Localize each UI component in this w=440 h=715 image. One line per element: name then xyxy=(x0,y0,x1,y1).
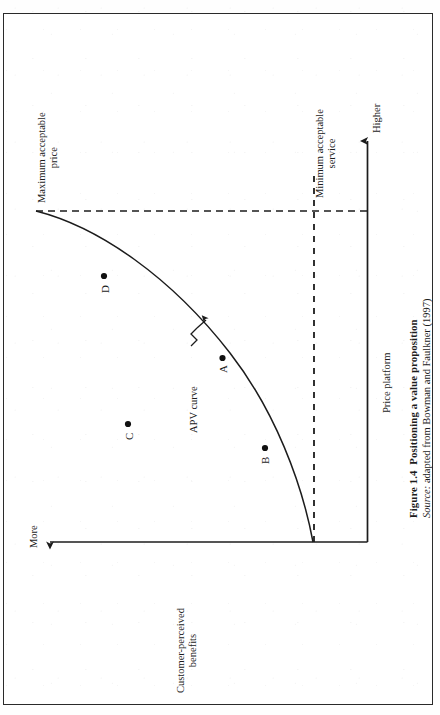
label-minimum-acceptable-service-line2: service xyxy=(326,139,337,169)
label-more: More xyxy=(28,525,40,548)
figure-source-text: adapted from Bowman and Faulkner (1997) xyxy=(421,299,432,486)
figure-diagram: Maximum acceptable price Minimum accepta… xyxy=(3,13,433,705)
figure-caption-number: Figure 1.4 xyxy=(407,470,419,518)
data-point-D xyxy=(101,273,107,279)
label-customer-perceived-benefits: Customer-perceived benefits xyxy=(175,608,199,693)
apv-curve-leader xyxy=(191,320,206,346)
point-label-C: C xyxy=(123,433,135,440)
figure-source-line: Source: adapted from Bowman and Faulkner… xyxy=(421,299,433,518)
label-apv-curve: APV curve xyxy=(188,386,200,433)
label-higher: Higher xyxy=(371,104,383,133)
label-benefits-line2: benefits xyxy=(187,634,198,667)
label-maximum-acceptable-price: Maximum acceptable price xyxy=(36,112,60,203)
point-label-A: A xyxy=(217,365,229,373)
label-benefits-line1: Customer-perceived xyxy=(175,608,186,693)
data-point-A xyxy=(219,355,225,361)
label-maximum-acceptable-price-line2: price xyxy=(48,147,59,168)
label-maximum-acceptable-price-line1: Maximum acceptable xyxy=(36,112,47,203)
label-minimum-acceptable-service: Minimum acceptable service xyxy=(314,109,338,198)
label-minimum-acceptable-service-line1: Minimum acceptable xyxy=(314,109,325,198)
apv-curve xyxy=(36,211,313,542)
figure-vector-graphic xyxy=(3,13,433,705)
data-point-B xyxy=(262,445,268,451)
figure-caption-text: Positioning a value proposition xyxy=(407,319,419,464)
figure-caption-title: Figure 1.4 Positioning a value propositi… xyxy=(407,319,419,518)
scanned-page: Maximum acceptable price Minimum accepta… xyxy=(0,0,440,715)
label-price-platform: Price platform xyxy=(381,353,393,413)
data-point-C xyxy=(125,421,131,427)
point-label-D: D xyxy=(99,285,111,293)
figure-source-prefix: Source: xyxy=(421,486,432,518)
point-label-B: B xyxy=(259,457,271,464)
